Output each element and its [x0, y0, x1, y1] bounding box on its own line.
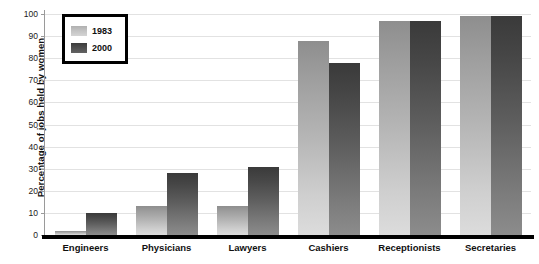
category-label-receptionists: Receptionists: [369, 242, 450, 253]
bar-physicians-1983: [136, 206, 167, 235]
category-label-engineers: Engineers: [45, 242, 126, 253]
bar-lawyers-1983: [217, 206, 248, 235]
y-axis-tick-label: 40: [12, 142, 38, 152]
bar-chart: Percentage of jobs held by women 0102030…: [0, 0, 539, 264]
category-label-cashiers: Cashiers: [288, 242, 369, 253]
x-axis-line: [42, 235, 534, 239]
category-label-physicians: Physicians: [126, 242, 207, 253]
y-axis-tick-label: 30: [12, 164, 38, 174]
y-axis-tick-label: 0: [12, 230, 38, 240]
legend-label-1983: 1983: [92, 26, 112, 36]
gridline: [45, 80, 531, 81]
gridline: [45, 169, 531, 170]
y-axis-tick-label: 10: [12, 208, 38, 218]
y-axis-tick-label: 90: [12, 31, 38, 41]
gridline: [45, 125, 531, 126]
y-axis-tick-label: 80: [12, 53, 38, 63]
bar-physicians-2000: [167, 173, 198, 235]
legend-item-2000: 2000: [71, 39, 125, 56]
bar-receptionists-1983: [379, 21, 410, 235]
bar-lawyers-2000: [248, 167, 279, 236]
bar-secretaries-1983: [460, 16, 491, 235]
legend-swatch-2000: [71, 43, 87, 53]
legend-item-1983: 1983: [71, 22, 125, 39]
y-axis-tick-label: 50: [12, 120, 38, 130]
legend: 1983 2000: [62, 14, 128, 64]
y-axis-tick-label: 100: [12, 9, 38, 19]
gridline: [45, 147, 531, 148]
category-label-secretaries: Secretaries: [450, 242, 531, 253]
y-axis-tick-label: 20: [12, 186, 38, 196]
bar-engineers-2000: [86, 213, 117, 235]
y-axis-tick-label: 60: [12, 97, 38, 107]
bar-receptionists-2000: [410, 21, 441, 235]
legend-label-2000: 2000: [92, 43, 112, 53]
bar-secretaries-2000: [491, 16, 522, 235]
gridline: [45, 191, 531, 192]
legend-swatch-1983: [71, 26, 87, 36]
bar-cashiers-2000: [329, 63, 360, 235]
gridline: [45, 102, 531, 103]
y-axis-tick-label: 70: [12, 75, 38, 85]
bar-cashiers-1983: [298, 41, 329, 235]
category-label-lawyers: Lawyers: [207, 242, 288, 253]
gridline: [45, 213, 531, 214]
